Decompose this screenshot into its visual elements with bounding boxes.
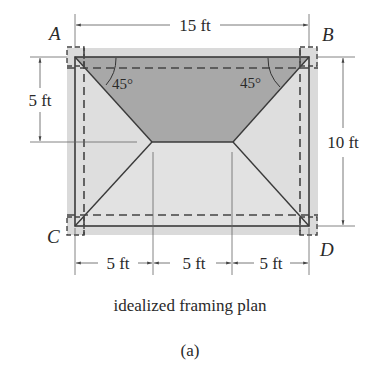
framing-plan-diagram: 45° 45° 15 ft 5 ft 10 ft 5 ft 5 ft 5 ft … [0,0,381,370]
dim-right-height: 10 ft [327,133,359,152]
figure-sublabel: (a) [181,341,200,360]
dim-bottom-1: 5 ft [106,254,129,273]
corner-label-d: D [319,239,334,260]
figure-caption: idealized framing plan [114,296,267,315]
angle-left-label: 45° [112,76,133,92]
dim-left-height: 5 ft [28,91,51,110]
corner-label-b: B [322,24,334,45]
dim-bottom-2: 5 ft [182,254,205,273]
angle-right-label: 45° [240,75,261,91]
dim-top-width: 15 ft [179,16,211,35]
dim-bottom-3: 5 ft [259,254,282,273]
corner-label-a: A [47,23,61,44]
corner-label-c: C [47,226,60,247]
